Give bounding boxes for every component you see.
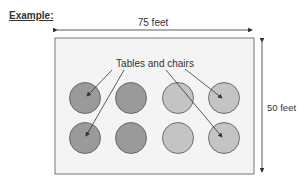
height-dimension: 50 feet xyxy=(262,42,296,172)
callout-label: Tables and chairs xyxy=(116,58,194,69)
table-circle xyxy=(116,83,147,114)
width-label: 75 feet xyxy=(138,17,169,28)
table-circle xyxy=(116,123,147,154)
table-circle xyxy=(70,123,101,154)
table-circle xyxy=(209,83,240,114)
table-circle xyxy=(163,83,194,114)
table-circle xyxy=(209,123,240,154)
room-diagram: 75 feet 50 feet Tables and chairs xyxy=(0,0,307,181)
table-circle xyxy=(163,123,194,154)
width-dimension: 75 feet xyxy=(57,17,252,30)
height-label: 50 feet xyxy=(267,102,296,113)
